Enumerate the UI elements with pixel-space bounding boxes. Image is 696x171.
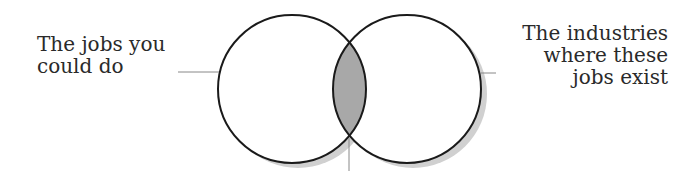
right-set-label: The industries where these jobs exist (460, 22, 668, 88)
left-set-label: The jobs you could do (37, 33, 165, 77)
right-label-line: jobs exist (460, 66, 668, 88)
left-label-line: The jobs you (37, 33, 165, 55)
left-label-line: could do (37, 55, 165, 77)
right-label-line: where these (460, 44, 668, 66)
venn-diagram: The jobs you could do The industries whe… (0, 0, 696, 171)
right-label-line: The industries (460, 22, 668, 44)
